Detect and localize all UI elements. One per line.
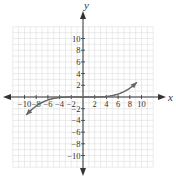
y-axis-down-arrow-icon	[80, 168, 86, 176]
y-axis-label: y	[83, 0, 89, 11]
y-tick-label: −4	[71, 115, 81, 125]
x-tick-label: 4	[104, 99, 109, 109]
y-tick-label: 8	[76, 45, 80, 55]
x-axis-label: x	[167, 91, 173, 103]
x-tick-label: 8	[128, 99, 132, 109]
x-axis-left-arrow-icon	[3, 94, 11, 100]
chart: −10−8−6−4−2246810108642−2−4−6−8−10 x y	[0, 0, 176, 180]
x-tick-label: −4	[55, 99, 65, 109]
x-tick-label: 2	[93, 99, 97, 109]
x-axis-right-arrow-icon	[158, 94, 166, 100]
y-axis-up-arrow-icon	[80, 11, 86, 19]
x-tick-label: 6	[116, 99, 120, 109]
y-tick-label: −6	[71, 127, 80, 137]
y-tick-label: −10	[67, 151, 80, 161]
y-tick-label: 6	[76, 57, 80, 67]
y-tick-label: −8	[71, 139, 80, 149]
y-tick-label: −2	[71, 104, 80, 114]
x-tick-label: −10	[18, 99, 31, 109]
x-tick-label: 10	[137, 99, 146, 109]
y-tick-label: 10	[72, 34, 81, 44]
y-tick-label: 2	[76, 80, 80, 90]
